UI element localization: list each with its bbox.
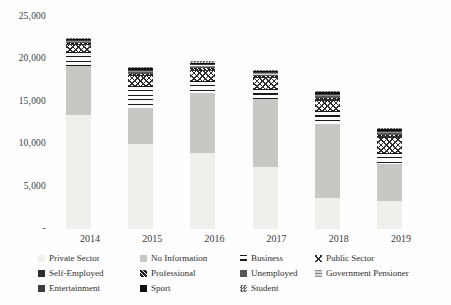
bar-segment-entertainment xyxy=(190,64,215,65)
bar-segment-entertainment xyxy=(128,70,153,71)
bar-segment-sport xyxy=(190,63,215,64)
bar-segment-private-sector xyxy=(315,198,340,229)
plot-area: -5,00010,00015,00020,00025,0002014201520… xyxy=(0,0,451,305)
bar-segment-business xyxy=(66,52,91,66)
y-axis-tick-label: - xyxy=(0,223,46,233)
bar-segment-unemployed xyxy=(315,96,340,97)
bar-segment-professional xyxy=(315,98,340,99)
bar-segment-professional xyxy=(377,135,402,136)
bar-segment-self-employed xyxy=(66,44,91,45)
bar-segment-public-sector xyxy=(315,101,340,111)
bar-segment-self-employed xyxy=(253,77,278,78)
bar-segment-professional xyxy=(128,74,153,75)
x-axis-label: 2017 xyxy=(252,233,302,244)
y-axis-tick-label: 20,000 xyxy=(0,53,46,63)
bar-segment-no-information xyxy=(253,99,278,167)
bar-segment-student xyxy=(66,38,91,39)
bar-segment-government-pensioner xyxy=(190,66,215,67)
bar-segment-student xyxy=(253,70,278,71)
bar-segment-no-information xyxy=(315,124,340,199)
bar-segment-entertainment xyxy=(66,40,91,41)
bar-segment-business xyxy=(128,86,153,108)
bar-segment-entertainment xyxy=(253,72,278,73)
bar-segment-government-pensioner xyxy=(377,132,402,133)
bar-segment-business xyxy=(253,89,278,99)
bar-segment-student xyxy=(315,91,340,92)
bar-segment-student xyxy=(128,67,153,68)
x-axis-label: 2016 xyxy=(189,233,239,244)
y-axis-tick-label: 10,000 xyxy=(0,138,46,148)
bar-segment-private-sector xyxy=(190,153,215,230)
bar-segment-public-sector xyxy=(66,45,91,52)
bar-segment-unemployed xyxy=(377,133,402,134)
bar-segment-sport xyxy=(66,39,91,40)
bar-segment-sport xyxy=(253,71,278,72)
x-axis-label: 2015 xyxy=(127,233,177,244)
bar-segment-self-employed xyxy=(128,75,153,76)
bar-segment-self-employed xyxy=(190,70,215,71)
bar-segment-unemployed xyxy=(66,42,91,43)
bar-segment-public-sector xyxy=(253,78,278,89)
bar-segment-government-pensioner xyxy=(253,73,278,74)
bar-segment-no-information xyxy=(190,93,215,153)
bar-segment-no-information xyxy=(128,108,153,144)
bar-segment-self-employed xyxy=(315,99,340,100)
bar-segment-private-sector xyxy=(128,144,153,229)
bar-segment-professional xyxy=(66,43,91,44)
bar-segment-unemployed xyxy=(190,67,215,68)
bar-segment-sport xyxy=(377,129,402,130)
bar-segment-private-sector xyxy=(253,167,278,229)
bar-segment-entertainment xyxy=(315,94,340,95)
bar-segment-unemployed xyxy=(253,75,278,76)
bar-segment-public-sector xyxy=(128,76,153,86)
bar-segment-professional xyxy=(190,68,215,69)
y-axis-tick-label: 5,000 xyxy=(0,181,46,191)
bar-segment-business xyxy=(377,153,402,164)
bar-segment-no-information xyxy=(66,66,91,115)
bar-segment-business xyxy=(315,111,340,124)
y-axis-tick-label: 15,000 xyxy=(0,96,46,106)
bar-segment-private-sector xyxy=(377,201,402,229)
bar-segment-unemployed xyxy=(128,72,153,73)
bar-segment-sport xyxy=(128,68,153,69)
bar-segment-professional xyxy=(253,76,278,77)
bar-segment-public-sector xyxy=(377,138,402,153)
bar-segment-public-sector xyxy=(190,71,215,81)
bar-segment-student xyxy=(377,128,402,129)
x-axis-label: 2014 xyxy=(65,233,115,244)
x-axis-label: 2019 xyxy=(376,233,426,244)
bar-segment-self-employed xyxy=(377,136,402,137)
bar-segment-sport xyxy=(315,92,340,93)
bar-segment-government-pensioner xyxy=(66,41,91,42)
bar-segment-student xyxy=(190,61,215,62)
bar-segment-government-pensioner xyxy=(128,71,153,72)
bar-segment-no-information xyxy=(377,164,402,201)
bar-segment-government-pensioner xyxy=(315,95,340,96)
bar-segment-entertainment xyxy=(377,131,402,132)
stacked-bar-chart: -5,00010,00015,00020,00025,0002014201520… xyxy=(0,0,451,305)
bar-segment-business xyxy=(190,81,215,93)
y-axis-tick-label: 25,000 xyxy=(0,11,46,21)
x-axis-label: 2018 xyxy=(314,233,364,244)
bar-segment-private-sector xyxy=(66,115,91,229)
